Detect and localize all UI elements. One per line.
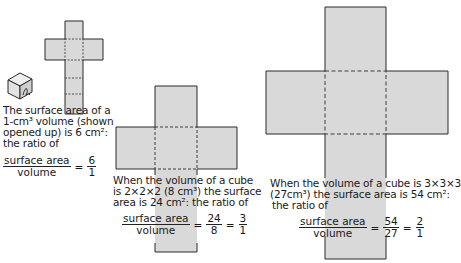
large-ratio-equation: surface area volume = 54 27 = 2 1 bbox=[299, 216, 424, 239]
value-denominator: 27 bbox=[384, 228, 397, 239]
medium-ratio: 3 1 bbox=[239, 213, 248, 236]
ratio-denominator: 1 bbox=[240, 225, 247, 236]
large-fraction: surface area volume bbox=[299, 216, 367, 239]
fraction-denominator: volume bbox=[313, 228, 352, 239]
small-ratio: 6 1 bbox=[87, 155, 96, 178]
value-denominator: 8 bbox=[211, 225, 218, 236]
ratio-denominator: 1 bbox=[88, 167, 95, 178]
fraction-denominator: volume bbox=[17, 167, 56, 178]
small-caption-4: the ratio of bbox=[3, 138, 59, 149]
fraction-denominator: volume bbox=[136, 225, 175, 236]
large-caption-3: the ratio of bbox=[272, 200, 328, 211]
medium-values: 24 8 bbox=[206, 213, 221, 236]
medium-ratio-equation: surface area volume = 24 8 = 3 1 bbox=[122, 213, 247, 236]
large-ratio: 2 1 bbox=[416, 216, 425, 239]
medium-fraction: surface area volume bbox=[122, 213, 190, 236]
small-cube-net bbox=[45, 21, 103, 114]
cube-icon bbox=[8, 73, 32, 99]
small-fraction: surface area volume bbox=[3, 155, 71, 178]
medium-caption-3: area is 24 cm²: the ratio of bbox=[113, 197, 248, 208]
large-values: 54 27 bbox=[383, 216, 398, 239]
small-ratio-equation: surface area volume = 6 1 bbox=[3, 155, 96, 178]
ratio-denominator: 1 bbox=[417, 228, 424, 239]
